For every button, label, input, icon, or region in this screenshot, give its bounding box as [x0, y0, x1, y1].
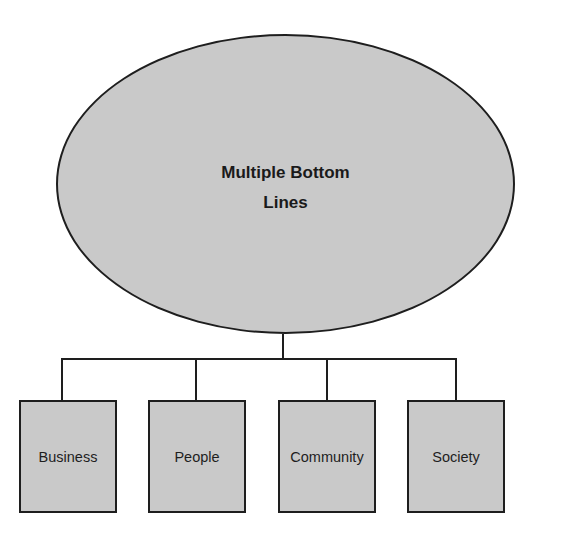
root-node-multiple-bottom-lines: Multiple Bottom Lines — [56, 34, 515, 334]
connector-to-community — [326, 358, 328, 401]
connector-to-people — [195, 358, 197, 401]
connector-to-business — [61, 358, 63, 401]
connector-horizontal-bar — [61, 358, 457, 360]
child-node-community: Community — [278, 400, 376, 513]
child-node-label: Business — [39, 449, 98, 465]
child-node-business: Business — [19, 400, 117, 513]
connector-root-stem — [282, 334, 284, 360]
connector-to-society — [455, 358, 457, 401]
diagram-canvas: Multiple Bottom Lines Business People Co… — [0, 0, 574, 543]
child-node-label: Society — [432, 449, 480, 465]
child-node-label: People — [174, 449, 219, 465]
child-node-society: Society — [407, 400, 505, 513]
root-node-label: Multiple Bottom Lines — [211, 158, 361, 218]
child-node-people: People — [148, 400, 246, 513]
child-node-label: Community — [290, 449, 363, 465]
